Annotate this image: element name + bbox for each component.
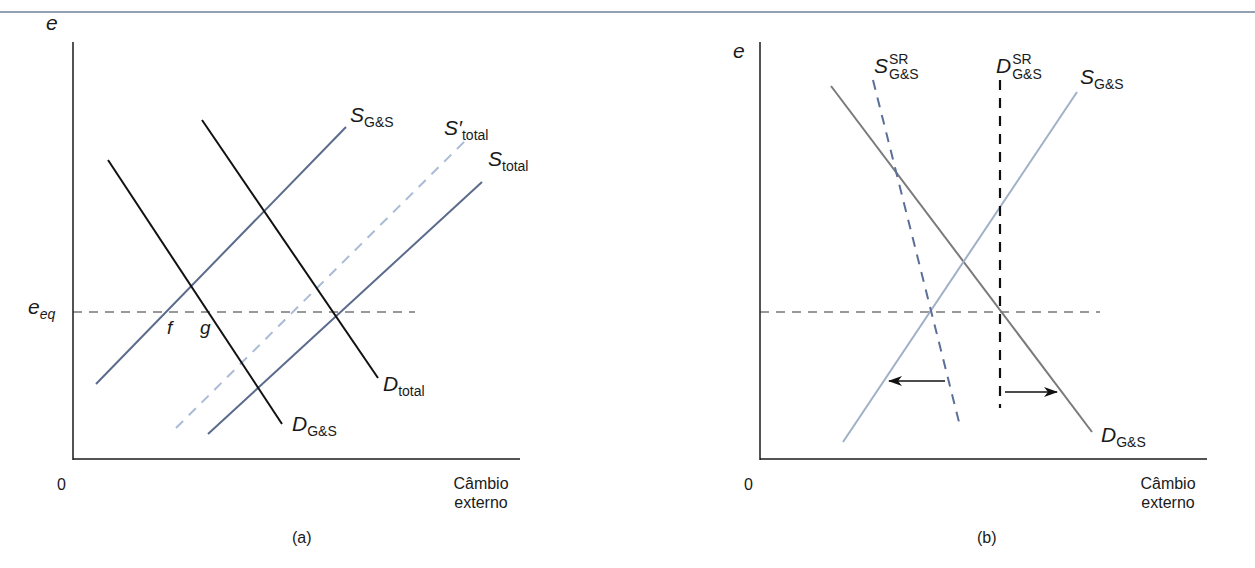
d-gs-main: D bbox=[292, 412, 307, 435]
x-axis-label-b-line2: externo bbox=[1133, 495, 1203, 511]
y-axis-label-a: e bbox=[46, 12, 58, 33]
panel-b bbox=[760, 42, 1207, 460]
s-sr-main: S bbox=[874, 54, 888, 77]
caption-a: (a) bbox=[292, 530, 312, 546]
d-sr-sup: SR bbox=[1012, 52, 1042, 67]
d-gs-b-sub: G&S bbox=[1116, 434, 1146, 450]
x-axis-label-b-line1: Câmbio bbox=[1133, 476, 1203, 492]
figure-canvas bbox=[0, 0, 1255, 568]
x-axis-label-a-line1: Câmbio bbox=[446, 476, 516, 492]
s-gs-sub: G&S bbox=[364, 114, 394, 130]
eeq-main: e bbox=[28, 295, 40, 318]
s-sr-gs-label: SSRG&S bbox=[874, 55, 919, 85]
s-total-sub: total bbox=[502, 158, 528, 174]
origin-label-a: 0 bbox=[57, 477, 66, 493]
s-gs-b-main: S bbox=[1080, 65, 1094, 88]
d-total-main: D bbox=[383, 372, 398, 395]
caption-b: (b) bbox=[977, 530, 997, 546]
point-f-label: f bbox=[167, 318, 172, 337]
s-gs-main: S bbox=[350, 103, 364, 126]
s-gs-label-b: SG&S bbox=[1080, 66, 1124, 87]
x-axis-label-a: Câmbio externo bbox=[446, 476, 516, 511]
d-gs-sub: G&S bbox=[307, 423, 337, 439]
s-gs-curve-b bbox=[843, 92, 1077, 442]
s-total-prime-sub: total bbox=[462, 127, 488, 143]
d-total-sub: total bbox=[398, 383, 424, 399]
d-gs-label-b: DG&S bbox=[1101, 424, 1146, 445]
d-total-label: Dtotal bbox=[383, 373, 425, 394]
x-axis-label-a-line2: externo bbox=[446, 495, 516, 511]
s-gs-curve-a bbox=[96, 127, 346, 384]
s-sr-gs-curve bbox=[873, 80, 959, 422]
s-total-prime-main: S′ bbox=[444, 116, 462, 139]
d-sr-gs-label: DSRG&S bbox=[996, 55, 1042, 85]
origin-label-b: 0 bbox=[744, 477, 753, 493]
x-axis-label-b: Câmbio externo bbox=[1133, 476, 1203, 511]
point-g-label: g bbox=[200, 318, 211, 337]
s-total-main: S bbox=[488, 147, 502, 170]
s-gs-b-sub: G&S bbox=[1094, 76, 1124, 92]
y-axis-label-b: e bbox=[733, 40, 745, 61]
eeq-label: eeq bbox=[28, 296, 55, 317]
d-gs-curve-b bbox=[831, 86, 1092, 432]
s-total-curve bbox=[208, 182, 482, 434]
s-sr-sub: G&S bbox=[889, 67, 919, 82]
panel-a bbox=[73, 42, 520, 460]
eeq-sub: eq bbox=[40, 306, 56, 322]
d-gs-b-main: D bbox=[1101, 423, 1116, 446]
d-gs-label-a: DG&S bbox=[292, 413, 337, 434]
d-sr-sub: G&S bbox=[1012, 67, 1042, 82]
s-sr-sup: SR bbox=[889, 52, 919, 67]
d-sr-main: D bbox=[996, 54, 1011, 77]
s-gs-label-a: SG&S bbox=[350, 104, 394, 125]
s-total-prime-label: S′total bbox=[444, 117, 488, 138]
s-total-label: Stotal bbox=[488, 148, 528, 169]
